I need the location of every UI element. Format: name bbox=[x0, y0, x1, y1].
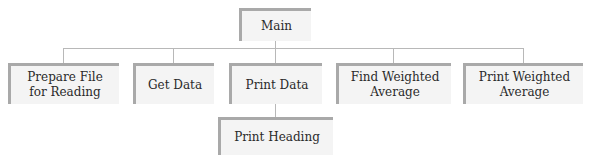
node-find-weighted-average: Find Weighted Average bbox=[336, 63, 451, 104]
node-main: Main bbox=[239, 8, 311, 41]
node-print-weighted-average: Print Weighted Average bbox=[463, 63, 583, 104]
node-find-weighted-average-label: Find Weighted Average bbox=[351, 70, 440, 100]
node-prepare-file-label: Prepare File for Reading bbox=[27, 70, 103, 100]
connector-prepare-file bbox=[63, 48, 64, 64]
node-main-label: Main bbox=[261, 19, 292, 34]
node-get-data: Get Data bbox=[133, 63, 214, 104]
connector-print-data bbox=[275, 48, 276, 64]
node-print-data-label: Print Data bbox=[246, 78, 309, 93]
node-prepare-file-for-reading: Prepare File for Reading bbox=[8, 63, 119, 104]
connector-horizontal-bus bbox=[63, 48, 524, 49]
connector-get-data bbox=[173, 48, 174, 64]
node-print-data: Print Data bbox=[229, 63, 322, 104]
connector-print-data-to-heading bbox=[275, 104, 276, 118]
connector-print-weighted-average bbox=[523, 48, 524, 64]
connector-find-weighted-average bbox=[393, 48, 394, 64]
node-print-heading-label: Print Heading bbox=[234, 130, 320, 145]
node-print-weighted-average-label: Print Weighted Average bbox=[479, 70, 570, 100]
node-print-heading: Print Heading bbox=[218, 117, 333, 155]
node-get-data-label: Get Data bbox=[148, 78, 202, 93]
